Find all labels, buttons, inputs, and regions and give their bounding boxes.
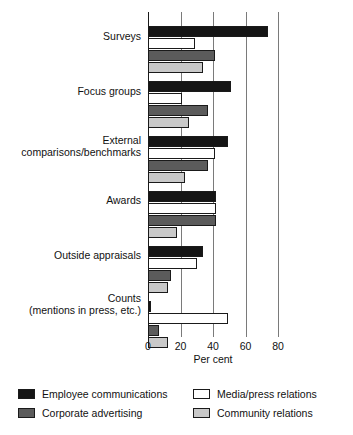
bar-group (148, 26, 278, 74)
bar (148, 227, 177, 238)
bar (148, 191, 216, 202)
x-tick-label-40: 40 (207, 340, 219, 352)
bar (148, 258, 197, 269)
category-label-line2: (mentions in press, etc.) (0, 304, 141, 316)
legend-swatch-dark-gray (18, 408, 35, 418)
legend-item-media-press-relations: Media/press relations (193, 388, 317, 400)
x-tick-label-20: 20 (175, 340, 187, 352)
plot-area (148, 12, 278, 337)
x-axis-tick-labels: 020406080 (0, 340, 353, 354)
category-label-awards: Awards (0, 194, 141, 206)
legend-item-employee-communications: Employee communications (18, 388, 167, 400)
bar (148, 215, 216, 226)
bar (148, 301, 151, 312)
category-label-counts: Counts (mentions in press, etc.) (0, 292, 141, 316)
category-label-line1: Focus groups (0, 85, 141, 97)
bar (148, 136, 228, 147)
category-label-outside-appraisals: Outside appraisals (0, 249, 141, 261)
bar (148, 313, 228, 324)
figure-caption-cutoff (0, 429, 353, 435)
legend-label: Media/press relations (217, 388, 317, 400)
bar (148, 203, 216, 214)
gridline-80 (278, 12, 279, 337)
bar (148, 172, 185, 183)
legend-swatch-white (193, 389, 210, 399)
bar (148, 270, 171, 281)
legend-swatch-light-gray (193, 408, 210, 418)
category-label-line1: Counts (0, 292, 141, 304)
category-label-line1: External (0, 134, 141, 146)
bar (148, 117, 189, 128)
bar (148, 93, 182, 104)
bar-group (148, 191, 278, 239)
bar (148, 26, 268, 37)
category-label-line2: comparisons/benchmarks (0, 146, 141, 158)
x-tick-label-0: 0 (145, 340, 151, 352)
category-label-external-comparisons: External comparisons/benchmarks (0, 134, 141, 158)
chart-legend: Employee communications Corporate advert… (18, 388, 338, 426)
bar-group (148, 136, 278, 184)
category-label-line1: Awards (0, 194, 141, 206)
bar (148, 62, 203, 73)
bar (148, 282, 168, 293)
category-label-focus-groups: Focus groups (0, 85, 141, 97)
x-tick-label-60: 60 (240, 340, 252, 352)
x-axis-title: Per cent (148, 353, 278, 365)
bar (148, 105, 208, 116)
legend-item-corporate-advertising: Corporate advertising (18, 407, 142, 419)
bar (148, 81, 231, 92)
bar-group (148, 246, 278, 294)
bar (148, 148, 215, 159)
bar-chart-figure: Surveys Focus groups External comparison… (0, 0, 353, 435)
x-tick-label-80: 80 (272, 340, 284, 352)
bar (148, 160, 208, 171)
legend-label: Employee communications (42, 388, 167, 400)
legend-item-community-relations: Community relations (193, 407, 313, 419)
category-label-line1: Surveys (0, 30, 141, 42)
bar (148, 246, 203, 257)
bar (148, 325, 159, 336)
legend-label: Corporate advertising (42, 407, 142, 419)
category-label-surveys: Surveys (0, 30, 141, 42)
legend-swatch-black (18, 389, 35, 399)
category-label-line1: Outside appraisals (0, 249, 141, 261)
bar (148, 50, 215, 61)
legend-label: Community relations (217, 407, 313, 419)
bar-group (148, 81, 278, 129)
bar (148, 38, 195, 49)
